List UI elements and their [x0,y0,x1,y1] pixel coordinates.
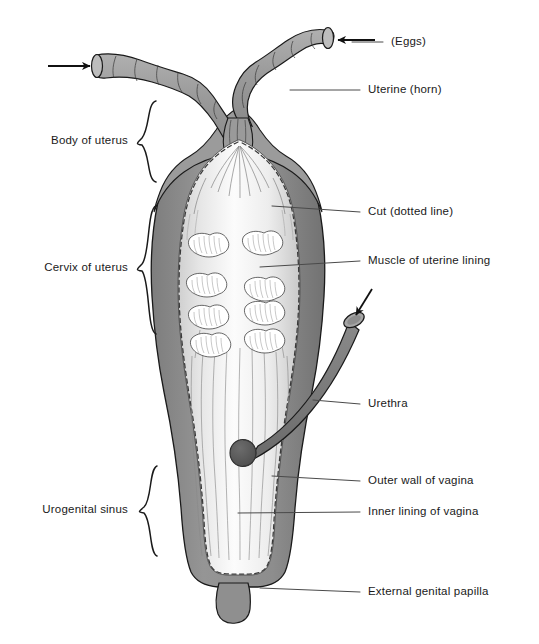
urethra-entry-arrow [356,289,372,315]
label-outer-wall-of-vagina: Outer wall of vagina [368,475,474,487]
external-genital-papilla-shape [216,583,250,623]
label-muscle-of-uterine-lining: Muscle of uterine lining [368,255,490,267]
label-cut-dotted-line: Cut (dotted line) [368,206,453,218]
label-cervix-of-uterus: Cervix of uterus [0,262,128,274]
brace-urogenital-sinus [140,466,158,556]
label-uterine-horn: Uterine (horn) [368,84,442,96]
label-urogenital-sinus: Urogenital sinus [0,504,128,516]
label-inner-lining-of-vagina: Inner lining of vagina [368,506,479,518]
horn-cut-opening-left [92,55,103,78]
label-eggs: (Eggs) [391,36,426,48]
label-urethra: Urethra [368,398,408,410]
brace-body-of-uterus [138,101,157,182]
figure-canvas: (Eggs) Uterine (horn) Cut (dotted line) … [0,0,539,644]
urethral-orifice [230,440,256,467]
horn-cut-opening-right [323,28,334,49]
label-body-of-uterus: Body of uterus [0,135,128,147]
anatomical-diagram [0,0,539,644]
uterine-horn-left [48,54,240,146]
label-external-genital-papilla: External genital papilla [368,586,489,598]
urethra-cut-opening [341,309,366,331]
